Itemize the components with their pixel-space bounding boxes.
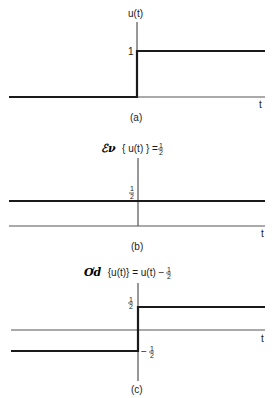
upper-half-num: 1: [129, 296, 133, 303]
x-axis-label-c: t: [261, 333, 264, 344]
title-c-frac-den: 2: [167, 273, 171, 280]
x-axis-label-a: t: [259, 99, 262, 110]
signal-diagram: u(t) 1 t (a) ℰν { u(t) } = 1 2 1 2 t (b)…: [0, 0, 275, 398]
caption-a: (a): [130, 112, 142, 123]
title-b-frac-num: 1: [159, 142, 163, 149]
y-axis-label-a: u(t): [128, 8, 143, 19]
odd-operator-symbol: Ơd: [84, 266, 102, 279]
title-b-frac-den: 2: [159, 149, 163, 156]
upper-half-den: 2: [129, 303, 133, 310]
title-c-body: {u(t)} = u(t) −: [108, 267, 165, 278]
title-c-frac-num: 1: [167, 266, 171, 273]
lower-half-den: 2: [150, 352, 154, 359]
panel-a: u(t) 1 t (a): [9, 8, 265, 123]
odd-part-signal: [11, 307, 265, 351]
panel-b: ℰν { u(t) } = 1 2 1 2 t (b): [9, 138, 265, 252]
even-operator-symbol: ℰν: [101, 142, 116, 155]
x-axis-label-b: t: [261, 228, 264, 239]
unit-step-signal: [9, 51, 265, 97]
level-half-num-b: 1: [130, 185, 134, 192]
title-b-body: { u(t) } =: [122, 143, 158, 154]
level-one-label: 1: [128, 46, 134, 57]
lower-half-num: 1: [150, 345, 154, 352]
caption-b: (b): [131, 241, 143, 252]
title-c: Ơd {u(t)} = u(t) −: [84, 262, 165, 279]
caption-c: (c): [131, 384, 143, 395]
lower-half-sign: −: [141, 346, 147, 357]
level-half-den-b: 2: [130, 193, 134, 200]
title-b: ℰν { u(t) } =: [101, 138, 158, 155]
panel-c: Ơd {u(t)} = u(t) − 1 2 1 2 − 1 2 t (c): [11, 262, 265, 395]
